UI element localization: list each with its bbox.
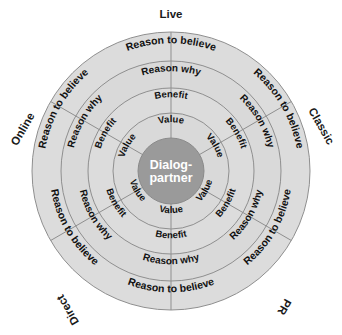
center-label: Dialog-partner	[149, 158, 192, 185]
center-node: Dialog-partner	[138, 138, 204, 204]
ring-label-direct-1: Benefit	[155, 227, 189, 240]
channel-label-direct: Direct	[54, 293, 81, 327]
channel-label-pr: PR	[275, 297, 294, 317]
ring-label-live-1: Benefit	[153, 88, 189, 101]
channel-label-online: Online	[8, 111, 36, 148]
channel-label-classic: Classic	[306, 106, 337, 147]
ring-label-direct-0: Value	[158, 203, 184, 216]
ring-label-live-0: Value	[157, 113, 185, 126]
concentric-wheel-diagram: ValueBenefitReason whyReason to believeV…	[0, 0, 342, 335]
wheel-svg: ValueBenefitReason whyReason to believeV…	[0, 0, 342, 335]
channel-label-live: Live	[159, 8, 182, 20]
